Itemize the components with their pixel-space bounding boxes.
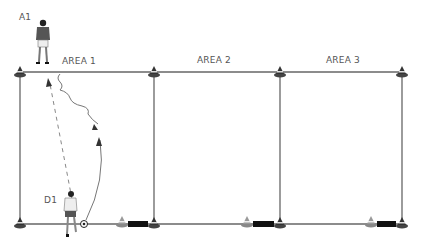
mini-goal-icon: [128, 221, 148, 227]
field-lines: [20, 72, 402, 224]
mini-goal-icon: [253, 221, 274, 227]
arrowhead-icon: [46, 78, 52, 87]
cone-icon: [14, 217, 26, 229]
dribble-arrow: [58, 74, 98, 130]
cone-icon: [396, 217, 408, 229]
cone-icon: [148, 217, 160, 229]
run-arrow: [86, 137, 102, 220]
area-label-3: AREA 3: [326, 55, 360, 65]
player-d1-icon: [64, 191, 77, 237]
cone-icon: [274, 217, 286, 229]
cone-icon: [365, 216, 377, 228]
cone-icon: [241, 216, 253, 228]
cone-icon: [116, 216, 128, 228]
arrowhead-icon: [96, 137, 102, 146]
player-label-a1: A1: [19, 12, 31, 22]
arrowhead-icon: [92, 124, 98, 130]
player-a1-icon: [36, 20, 50, 64]
area-label-1: AREA 1: [62, 56, 96, 66]
area-label-2: AREA 2: [197, 55, 231, 65]
player-label-d1: D1: [44, 195, 57, 205]
mini-goal-icon: [377, 221, 396, 227]
ball-icon: [81, 221, 88, 228]
drill-diagram: A1 D1 AREA 1 AREA 2 AREA 3: [0, 0, 423, 249]
cones-bottom: [14, 216, 408, 229]
field-svg: [0, 0, 423, 249]
